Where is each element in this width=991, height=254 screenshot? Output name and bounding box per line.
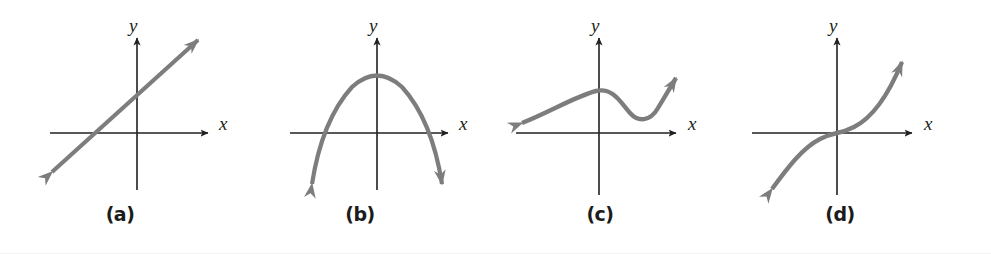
x-axis-label-a: x: [218, 113, 228, 134]
y-axis-label-a: y: [127, 15, 138, 36]
panel-caption-b: (b): [240, 203, 480, 225]
panel-caption-d: (d): [720, 203, 960, 225]
panel-caption-a: (a): [0, 203, 240, 225]
y-axis-label-c: y: [589, 15, 600, 36]
y-axis-label-b: y: [367, 15, 378, 36]
curve-increasing-line: [52, 40, 198, 172]
y-axis-label-d: y: [827, 15, 838, 36]
panel-d: y x (d): [720, 0, 991, 254]
panel-a: y x (a): [0, 0, 240, 254]
figure-container: y x (a) y x (b) y x (c): [0, 0, 991, 254]
x-axis-label-b: x: [458, 113, 468, 134]
panel-caption-c: (c): [480, 203, 720, 225]
x-axis-label-d: x: [923, 113, 933, 134]
panel-c: y x (c): [480, 0, 720, 254]
panel-b: y x (b): [240, 0, 480, 254]
x-axis-label-c: x: [687, 113, 697, 134]
